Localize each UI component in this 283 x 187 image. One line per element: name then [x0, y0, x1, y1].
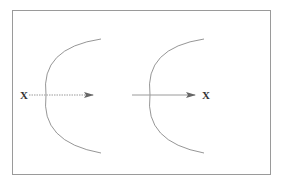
right-mirror-arc	[149, 39, 204, 153]
right-panel: X	[132, 39, 210, 153]
left-mirror-arc	[45, 39, 101, 153]
diagram-frame	[13, 11, 271, 175]
object-label: X	[20, 89, 28, 101]
image-label: X	[202, 89, 210, 101]
diagram-canvas: X X	[0, 0, 283, 187]
left-panel: X	[20, 39, 101, 153]
